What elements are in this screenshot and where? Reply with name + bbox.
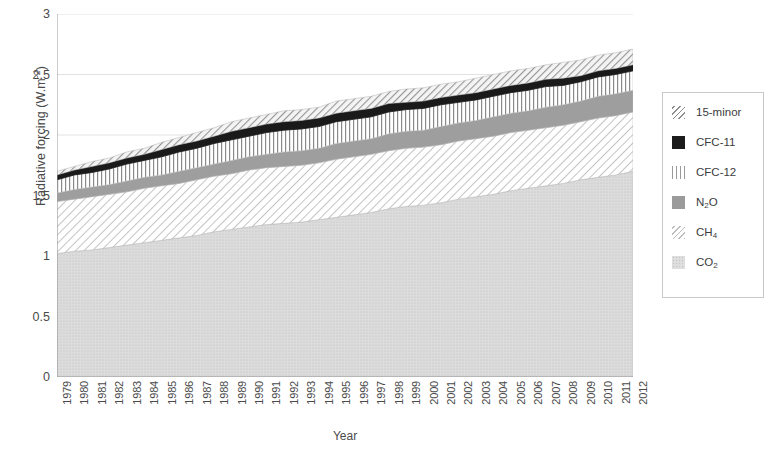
y-axis-tick-label: 3 xyxy=(6,7,50,21)
legend-item-label: 15-minor xyxy=(696,106,741,118)
x-axis-tick-label: 1992 xyxy=(288,381,300,405)
y-axis-tick-label: 1.5 xyxy=(6,189,50,203)
x-axis-tick-label: 1985 xyxy=(166,381,178,405)
x-axis-tick-label: 1979 xyxy=(61,381,73,405)
legend-swatch-icon xyxy=(672,256,685,269)
x-axis-tick-label: 1984 xyxy=(148,381,160,405)
chart-legend: 15-minorCFC-11CFC-12N2OCH4CO2 xyxy=(662,92,764,298)
x-axis-tick-label: 1994 xyxy=(323,381,335,405)
area-layers xyxy=(57,49,633,377)
x-axis-tick-label: 2003 xyxy=(480,381,492,405)
x-axis-tick-label: 1991 xyxy=(270,381,282,405)
plot-area xyxy=(57,14,633,377)
legend-swatch-icon xyxy=(672,226,685,239)
x-axis-tick-label: 2005 xyxy=(515,381,527,405)
x-axis-tick-label: 2006 xyxy=(532,381,544,405)
y-axis-tick-label: 2 xyxy=(6,128,50,142)
x-axis-tick-label: 2009 xyxy=(585,381,597,405)
x-axis-tick-label: 1982 xyxy=(113,381,125,405)
y-axis-tick-label: 0 xyxy=(6,370,50,384)
x-axis-tick-label: 1980 xyxy=(78,381,90,405)
legend-item-n2o[interactable]: N2O xyxy=(672,194,718,210)
x-axis-tick-label: 1995 xyxy=(340,381,352,405)
legend-item-cfc-12[interactable]: CFC-12 xyxy=(672,164,736,180)
legend-item-cfc-11[interactable]: CFC-11 xyxy=(672,134,735,150)
legend-swatch-icon xyxy=(672,166,685,179)
legend-swatch-icon xyxy=(672,196,685,209)
x-axis-tick-label: 2007 xyxy=(550,381,562,405)
x-axis-tick-label: 2000 xyxy=(428,381,440,405)
x-axis-tick-label: 1998 xyxy=(393,381,405,405)
legend-item-co2[interactable]: CO2 xyxy=(672,254,718,270)
x-axis-tick-label: 2011 xyxy=(620,381,632,404)
y-axis-tick-label: 0.5 xyxy=(6,310,50,324)
legend-item-label: N2O xyxy=(696,196,718,208)
legend-swatch-icon xyxy=(672,136,685,149)
y-axis-tick-labels: 00.511.522.53 xyxy=(0,14,50,377)
x-axis-tick-label: 1987 xyxy=(201,381,213,405)
y-axis-tick-label: 2.5 xyxy=(6,68,50,82)
radiative-forcing-chart-figure: Radiative forcing (W.m-2) 00.511.522.53 xyxy=(0,0,771,451)
x-axis-tick-label: 1990 xyxy=(253,381,265,405)
x-axis-tick-label: 2002 xyxy=(462,381,474,405)
legend-item-label: CO2 xyxy=(696,256,718,268)
legend-item-label: CFC-11 xyxy=(696,136,735,148)
x-axis-tick-label: 1989 xyxy=(236,381,248,405)
x-axis-tick-label: 2010 xyxy=(602,381,614,405)
x-axis-tick-label: 1993 xyxy=(305,381,317,405)
legend-item-15-minor[interactable]: 15-minor xyxy=(672,104,741,120)
x-axis-tick-label: 1988 xyxy=(218,381,230,405)
x-axis-tick-label: 1997 xyxy=(375,381,387,405)
stacked-area-plot xyxy=(57,14,633,377)
x-axis-tick-labels: 1979198019811982198319841985198619871988… xyxy=(57,381,633,429)
x-axis-tick-label: 1999 xyxy=(410,381,422,405)
x-axis-tick-label: 2012 xyxy=(637,381,649,405)
x-axis-tick-label: 2004 xyxy=(497,381,509,405)
legend-swatch-icon xyxy=(672,106,685,119)
x-axis-tick-label: 2008 xyxy=(567,381,579,405)
x-axis-title: Year xyxy=(0,429,690,443)
x-axis-tick-label: 1983 xyxy=(131,381,143,405)
x-axis-tick-label: 1981 xyxy=(96,381,108,405)
x-axis-tick-label: 1986 xyxy=(183,381,195,405)
x-axis-tick-label: 2001 xyxy=(445,381,457,405)
legend-item-label: CH4 xyxy=(696,226,717,238)
legend-item-label: CFC-12 xyxy=(696,166,736,178)
legend-item-ch4[interactable]: CH4 xyxy=(672,224,717,240)
y-axis-tick-label: 1 xyxy=(6,249,50,263)
x-axis-tick-label: 1996 xyxy=(358,381,370,405)
